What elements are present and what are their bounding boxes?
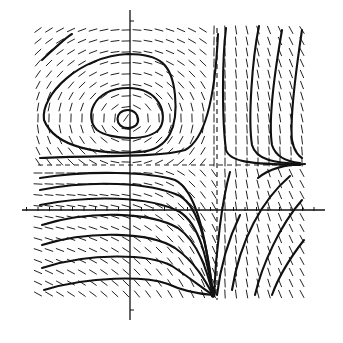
slope-mark (90, 93, 95, 99)
slope-mark (236, 257, 237, 265)
slope-mark (201, 159, 206, 165)
slope-mark (212, 235, 215, 242)
slope-mark (289, 246, 292, 253)
slope-mark (133, 63, 141, 64)
slope-mark (89, 29, 97, 31)
slope-mark (201, 82, 205, 89)
slope-mark (212, 214, 216, 221)
phase-portrait-diagram (0, 0, 343, 343)
slope-mark (122, 140, 130, 141)
slope-mark (269, 136, 270, 144)
slope-mark (78, 50, 85, 54)
slope-mark (300, 280, 304, 287)
slope-mark (257, 59, 259, 67)
slope-mark (101, 248, 108, 252)
slope-mark (268, 59, 270, 67)
slope-mark (301, 114, 303, 122)
solution-curves (40, 26, 305, 298)
slope-mark (111, 194, 119, 195)
slope-mark (190, 92, 194, 99)
slope-mark (81, 125, 83, 133)
slope-mark (111, 95, 118, 98)
slope-mark (301, 125, 302, 133)
slope-mark (289, 290, 292, 297)
slope-mark (112, 259, 119, 263)
slope-mark (246, 257, 247, 265)
slope-mark (47, 159, 52, 165)
slope-mark (57, 50, 63, 55)
slope-mark (79, 160, 85, 165)
slope-mark (235, 26, 236, 34)
slope-mark (155, 160, 162, 164)
slope-mark (133, 41, 141, 42)
slope-mark (100, 205, 108, 207)
slope-mark (156, 149, 163, 154)
slope-mark (201, 181, 206, 187)
slope-mark (268, 235, 270, 243)
trajectory (271, 30, 300, 163)
slope-mark (167, 61, 174, 65)
slope-mark (156, 93, 162, 99)
slope-mark (257, 257, 259, 265)
slope-mark (34, 270, 41, 273)
slope-mark (189, 181, 195, 187)
slope-mark (90, 292, 96, 297)
slope-mark (35, 49, 41, 55)
slope-mark (236, 48, 237, 56)
slope-mark (167, 236, 172, 242)
slope-mark (36, 71, 41, 78)
slope-mark (190, 214, 195, 220)
slope-mark (111, 216, 119, 219)
slope-mark (189, 170, 195, 175)
slope-mark (68, 292, 75, 296)
slope-mark (56, 227, 64, 229)
slope-mark (112, 291, 118, 296)
slope-mark (111, 52, 119, 53)
slope-mark (289, 48, 292, 55)
slope-mark (67, 28, 74, 31)
slope-mark (111, 227, 118, 230)
slope-mark (111, 30, 119, 31)
slope-mark (279, 114, 280, 122)
slope-mark (45, 227, 53, 229)
slope-mark (168, 93, 173, 99)
slope-mark (47, 82, 51, 89)
slope-mark (144, 40, 152, 41)
slope-mark (79, 292, 86, 297)
slope-mark (268, 224, 270, 232)
slope-mark (236, 180, 237, 188)
slope-mark (134, 258, 140, 263)
slope-mark (123, 291, 129, 297)
slope-mark (79, 82, 85, 88)
slope-mark (268, 268, 270, 276)
slope-mark (144, 183, 152, 185)
slope-mark (101, 281, 107, 286)
slope-mark (246, 202, 247, 210)
slope-mark (246, 37, 248, 45)
slope-mark (133, 84, 141, 85)
slope-mark (133, 95, 141, 97)
trajectory (223, 28, 300, 165)
slope-mark (36, 82, 40, 89)
slope-mark (146, 126, 151, 133)
slope-mark (189, 50, 196, 55)
slope-mark (212, 203, 216, 210)
slope-mark (156, 247, 162, 253)
slope-mark (168, 269, 173, 275)
slope-mark (300, 70, 303, 77)
slope-mark (279, 290, 282, 297)
slope-mark (247, 92, 248, 100)
slope-mark (300, 181, 304, 188)
slope-mark (191, 103, 193, 111)
slope-mark (111, 161, 119, 163)
slope-mark (246, 279, 247, 287)
slope-mark (257, 224, 259, 232)
slope-mark (80, 93, 85, 100)
slope-mark (289, 224, 292, 231)
slope-mark (290, 81, 292, 89)
closed-orbit (118, 110, 139, 128)
slope-mark (236, 213, 237, 221)
slope-mark (157, 291, 162, 298)
slope-mark (212, 170, 217, 177)
slope-mark (246, 290, 247, 298)
